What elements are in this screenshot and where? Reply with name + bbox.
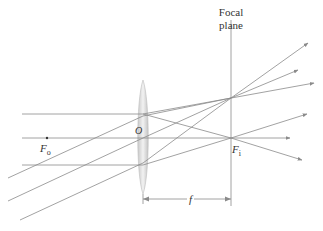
- dim-arrow-right: [225, 197, 231, 202]
- focal-length-label: f: [187, 194, 194, 205]
- image-focus-subscript: i: [239, 149, 241, 158]
- converging-lens: [138, 80, 149, 194]
- image-focus-label: Fi: [232, 144, 241, 158]
- oblique-ray-3: [20, 98, 231, 220]
- focal-plane-label-line2: plane: [206, 19, 256, 32]
- focal-plane-label: Focal plane: [206, 6, 256, 32]
- dim-arrow-left: [143, 197, 149, 202]
- parallel-ray-upper: [22, 114, 302, 160]
- object-focus-subscript: o: [47, 148, 51, 157]
- lens-center-letter: O: [135, 125, 142, 136]
- chief-ray-extension: [143, 83, 314, 114]
- object-focus-letter: F: [40, 142, 47, 154]
- focal-plane-label-line1: Focal: [206, 6, 256, 19]
- image-focus-letter: F: [232, 143, 239, 155]
- oblique-ray-2: [8, 43, 308, 201]
- object-focus-label: Fo: [40, 143, 51, 157]
- lens-diagram: [0, 0, 323, 231]
- parallel-ray-lower: [22, 114, 307, 165]
- lens-center-label: O: [135, 126, 142, 136]
- focal-length-letter: f: [189, 193, 192, 205]
- object-focus-point: [46, 137, 48, 139]
